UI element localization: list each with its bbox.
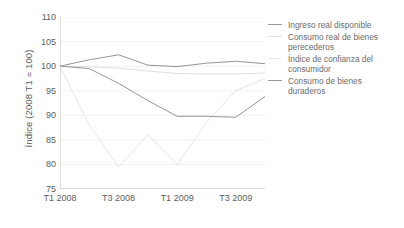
y-tick-label: 95 bbox=[32, 86, 56, 96]
y-tick-label: 90 bbox=[32, 110, 56, 120]
x-axis-tick-labels: T1 2008T3 2008T1 2009T3 2009 bbox=[60, 193, 265, 209]
x-tick-label: T3 2009 bbox=[219, 193, 252, 203]
legend-line-swatch-icon bbox=[268, 80, 284, 90]
x-tick-label: T3 2008 bbox=[102, 193, 135, 203]
chart-figure: Índice (2008 T1 = 100) 75808590951001051… bbox=[0, 0, 404, 228]
legend-item[interactable]: Consumo de bienes duraderos bbox=[268, 76, 400, 97]
x-tick-label: T1 2008 bbox=[43, 193, 76, 203]
legend-line-swatch-icon bbox=[268, 36, 284, 46]
legend-line-swatch-icon bbox=[268, 24, 284, 34]
series-line-0 bbox=[60, 55, 265, 67]
legend-item[interactable]: Consumo real de bienes perecederos bbox=[268, 32, 400, 53]
y-tick-label: 105 bbox=[32, 37, 56, 47]
legend-item-label: Índice de confianza del consumidor bbox=[288, 54, 400, 75]
series-line-2 bbox=[60, 66, 265, 167]
legend-item-label: Consumo real de bienes perecederos bbox=[288, 32, 400, 53]
legend-item-label: Ingreso real disponible bbox=[288, 20, 371, 30]
legend-item[interactable]: Ingreso real disponible bbox=[268, 20, 400, 31]
y-tick-label: 85 bbox=[32, 135, 56, 145]
legend-item[interactable]: Índice de confianza del consumidor bbox=[268, 54, 400, 75]
chart-legend: Ingreso real disponibleConsumo real de b… bbox=[268, 20, 400, 97]
plot-area bbox=[60, 17, 265, 189]
y-tick-label: 110 bbox=[32, 12, 56, 22]
series-line-1 bbox=[60, 66, 265, 74]
legend-item-label: Consumo de bienes duraderos bbox=[288, 76, 400, 97]
y-axis-tick-labels: 7580859095100105110 bbox=[30, 17, 56, 189]
x-tick-label: T1 2009 bbox=[161, 193, 194, 203]
legend-line-swatch-icon bbox=[268, 58, 284, 68]
y-tick-label: 100 bbox=[32, 61, 56, 71]
y-tick-label: 80 bbox=[32, 159, 56, 169]
plot-svg bbox=[60, 17, 265, 189]
